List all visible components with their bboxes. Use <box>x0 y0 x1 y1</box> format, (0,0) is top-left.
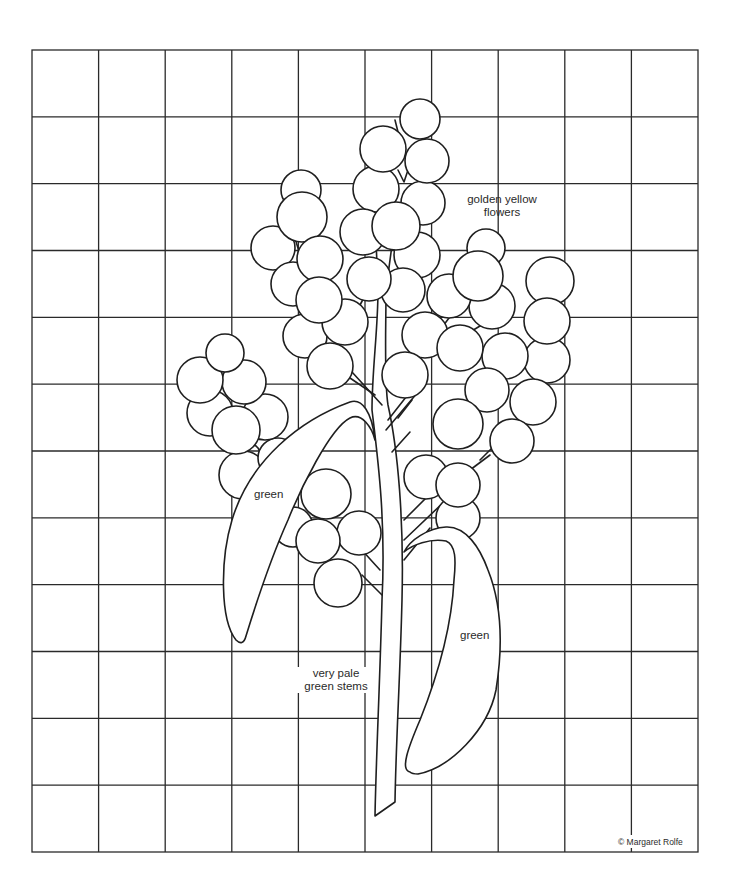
flowers-label: golden yellow flowers <box>452 193 552 219</box>
stems-label-line1: very pale <box>298 667 374 680</box>
copyright-notice: © Margaret Rolfe <box>614 835 686 848</box>
right-leaf <box>404 527 500 774</box>
flowers-label-line1: golden yellow <box>452 193 552 206</box>
stems-label-line2: green stems <box>298 680 374 693</box>
right-leaf-label: green <box>460 629 489 642</box>
left-leaf-label: green <box>254 488 283 501</box>
pattern-canvas <box>0 0 735 888</box>
flowers-label-line2: flowers <box>452 206 552 219</box>
stems-label: very pale green stems <box>297 667 375 693</box>
